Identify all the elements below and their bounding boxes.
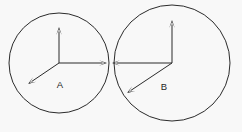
body-label-a: A (57, 79, 64, 90)
vector-a-down-left (28, 63, 59, 84)
figure-container: A B (0, 0, 242, 132)
body-group-a: A (9, 13, 109, 113)
vector-b-left (112, 60, 172, 66)
vector-a-right (59, 60, 107, 66)
vector-a-down-left-shaft (32, 63, 59, 82)
vector-b-up (169, 20, 175, 63)
body-group-b: B (112, 5, 230, 121)
body-label-b: B (161, 81, 167, 92)
vector-a-down-left-arrowhead (28, 77, 36, 84)
circles-vector-diagram: A B (0, 0, 242, 132)
vector-b-down-left-arrowhead (127, 86, 135, 93)
vector-a-up (56, 27, 62, 63)
